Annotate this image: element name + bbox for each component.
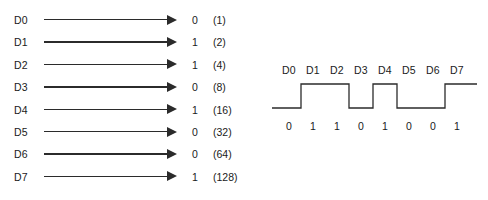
waveform-bit-label: D3 xyxy=(349,62,373,78)
data-line-row: D00(1) xyxy=(0,9,268,31)
arrow-shaft xyxy=(44,153,170,154)
data-line-arrow-icon xyxy=(44,9,178,31)
data-line-bit-value: 1 xyxy=(192,54,198,76)
arrow-shaft xyxy=(44,86,170,87)
data-line-label: D4 xyxy=(14,99,28,121)
data-line-arrow-icon xyxy=(44,166,178,188)
waveform-bit-value-row: 01101001 xyxy=(272,118,482,134)
data-line-arrow-icon xyxy=(44,99,178,121)
serial-waveform-group: D0D1D2D3D4D5D6D7 01101001 xyxy=(272,58,482,144)
waveform-bit-label: D1 xyxy=(301,62,325,78)
arrow-shaft xyxy=(44,41,170,42)
data-line-weight: (128) xyxy=(213,166,238,188)
arrow-head-icon xyxy=(167,171,177,181)
waveform-bit-value: 0 xyxy=(397,118,421,134)
data-line-bit-value: 1 xyxy=(192,99,198,121)
data-line-weight: (8) xyxy=(213,76,226,98)
data-line-label: D6 xyxy=(14,143,28,165)
serial-waveform-trace xyxy=(272,80,482,118)
arrow-head-icon xyxy=(167,104,177,114)
data-line-arrow-icon xyxy=(44,121,178,143)
data-line-label: D2 xyxy=(14,54,28,76)
arrow-head-icon xyxy=(167,82,177,92)
data-line-label: D7 xyxy=(14,166,28,188)
data-line-bit-value: 1 xyxy=(192,166,198,188)
data-line-row: D50(32) xyxy=(0,121,268,143)
data-line-row: D21(4) xyxy=(0,54,268,76)
data-line-weight: (64) xyxy=(213,143,232,165)
waveform-bit-label: D6 xyxy=(421,62,445,78)
waveform-bit-value: 1 xyxy=(301,118,325,134)
arrow-head-icon xyxy=(167,59,177,69)
data-line-weight: (4) xyxy=(213,54,226,76)
data-line-row: D41(16) xyxy=(0,99,268,121)
data-line-weight: (2) xyxy=(213,31,226,53)
waveform-bit-label-row: D0D1D2D3D4D5D6D7 xyxy=(272,62,482,78)
waveform-bit-label: D2 xyxy=(325,62,349,78)
waveform-bit-label: D5 xyxy=(397,62,421,78)
waveform-bit-label: D0 xyxy=(277,62,301,78)
data-line-label: D3 xyxy=(14,76,28,98)
data-line-arrow-icon xyxy=(44,54,178,76)
data-line-row: D11(2) xyxy=(0,31,268,53)
data-line-arrow-icon xyxy=(44,143,178,165)
arrow-head-icon xyxy=(167,127,177,137)
data-line-label: D1 xyxy=(14,31,28,53)
data-line-bit-value: 0 xyxy=(192,9,198,31)
waveform-bit-value: 0 xyxy=(349,118,373,134)
waveform-bit-label: D4 xyxy=(373,62,397,78)
data-line-bit-value: 0 xyxy=(192,121,198,143)
data-line-weight: (32) xyxy=(213,121,232,143)
arrow-shaft xyxy=(44,64,170,65)
arrow-shaft xyxy=(44,131,170,132)
waveform-bit-label: D7 xyxy=(445,62,469,78)
data-line-arrow-icon xyxy=(44,31,178,53)
waveform-bit-value: 1 xyxy=(445,118,469,134)
waveform-bit-value: 0 xyxy=(277,118,301,134)
data-line-arrow-icon xyxy=(44,76,178,98)
arrow-shaft xyxy=(44,109,170,110)
data-line-row: D71(128) xyxy=(0,166,268,188)
waveform-path xyxy=(272,84,477,108)
data-line-label: D0 xyxy=(14,9,28,31)
waveform-bit-value: 0 xyxy=(421,118,445,134)
parallel-data-lines-group: D00(1)D11(2)D21(4)D30(8)D41(16)D50(32)D6… xyxy=(0,0,268,200)
data-line-weight: (16) xyxy=(213,99,232,121)
arrow-shaft xyxy=(44,176,170,177)
data-line-weight: (1) xyxy=(213,9,226,31)
data-line-bit-value: 1 xyxy=(192,31,198,53)
arrow-head-icon xyxy=(167,15,177,25)
data-line-row: D60(64) xyxy=(0,143,268,165)
data-line-bit-value: 0 xyxy=(192,76,198,98)
arrow-head-icon xyxy=(167,149,177,159)
data-line-label: D5 xyxy=(14,121,28,143)
arrow-head-icon xyxy=(167,37,177,47)
waveform-bit-value: 1 xyxy=(373,118,397,134)
data-line-bit-value: 0 xyxy=(192,143,198,165)
data-line-row: D30(8) xyxy=(0,76,268,98)
waveform-bit-value: 1 xyxy=(325,118,349,134)
arrow-shaft xyxy=(44,19,170,20)
